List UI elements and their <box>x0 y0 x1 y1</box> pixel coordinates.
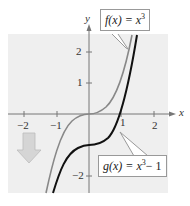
g-label-text: g(x) = x <box>103 159 142 173</box>
y-axis-label: y <box>85 13 90 24</box>
y-axis-arrow-icon <box>87 24 92 31</box>
f-function-label: f(x) = x3 <box>100 9 150 31</box>
x-axis-label: x <box>179 107 184 118</box>
y-tick-label: 2 <box>76 46 82 57</box>
x-tick-label: 2 <box>152 120 158 131</box>
y-tick-label: 1 <box>77 77 83 88</box>
x-tick-label: 1 <box>120 117 126 128</box>
x-axis-arrow-icon <box>169 112 176 117</box>
f-label-exponent: 3 <box>141 12 145 21</box>
y-tick-label: −2 <box>72 170 84 181</box>
g-label-suffix: − 1 <box>146 159 162 173</box>
x-tick-label: −2 <box>17 120 29 131</box>
g-function-label: g(x) = x3− 1 <box>98 155 167 177</box>
f-label-text: f(x) = x <box>105 13 141 27</box>
x-tick-label: −1 <box>50 120 62 131</box>
